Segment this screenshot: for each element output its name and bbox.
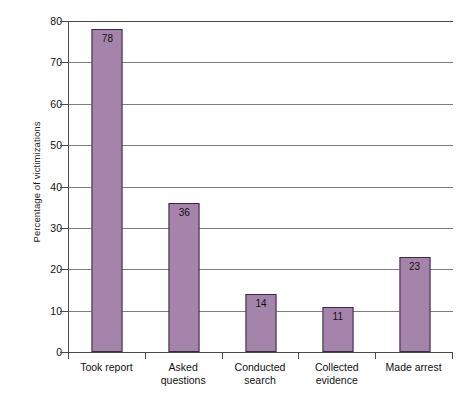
x-axis-tick-mark: [375, 353, 376, 359]
y-axis-tick-mark: [60, 62, 68, 63]
y-axis-tick-label: 40: [40, 182, 62, 192]
x-axis-category-label: Took report: [68, 361, 145, 374]
bars-layer: 7836141123: [69, 21, 453, 352]
y-axis-tick-labels: 01020304050607080: [40, 0, 62, 404]
bar-group[interactable]: 36: [146, 21, 223, 352]
y-axis-tick-mark: [60, 104, 68, 105]
y-axis-tick-mark: [60, 21, 68, 22]
y-axis-tick-label: 50: [40, 140, 62, 150]
bar-group[interactable]: 11: [299, 21, 376, 352]
x-axis-category-label: Collectedevidence: [298, 361, 375, 387]
bar[interactable]: 36: [169, 203, 200, 352]
y-axis-tick-mark: [60, 269, 68, 270]
x-axis-labels: Took reportAskedquestionsConductedsearch…: [68, 361, 452, 403]
x-axis-tick-mark: [452, 353, 453, 359]
y-axis-tick-label: 70: [40, 57, 62, 67]
bar-value-label: 36: [170, 207, 199, 218]
y-axis-ticks: [60, 21, 68, 352]
bar[interactable]: 11: [322, 307, 353, 353]
x-axis-category-label: Made arrest: [375, 361, 452, 374]
bar[interactable]: 78: [92, 29, 123, 352]
y-axis-tick-label: 60: [40, 99, 62, 109]
bar[interactable]: 23: [399, 257, 430, 352]
bar-group[interactable]: 23: [376, 21, 453, 352]
y-axis-tick-mark: [60, 228, 68, 229]
x-axis-tick-mark: [298, 353, 299, 359]
x-axis-label-line: evidence: [298, 374, 375, 387]
y-axis-tick-label: 10: [40, 306, 62, 316]
bar-value-label: 14: [246, 298, 275, 309]
x-axis-tick-mark: [145, 353, 146, 359]
y-axis-tick-mark: [60, 311, 68, 312]
bar-group[interactable]: 14: [223, 21, 300, 352]
bar[interactable]: 14: [245, 294, 276, 352]
y-axis-tick-mark: [60, 187, 68, 188]
y-axis-tick-label: 20: [40, 264, 62, 274]
bar-value-label: 23: [400, 261, 429, 272]
x-axis-ticks: [68, 353, 453, 360]
y-axis-tick-label: 30: [40, 223, 62, 233]
x-axis-label-line: Collected: [298, 361, 375, 374]
bar-value-label: 78: [93, 33, 122, 44]
x-axis-label-line: Made arrest: [375, 361, 452, 374]
y-axis-tick-mark: [60, 352, 68, 353]
bar-chart: Percentage of victimizations 01020304050…: [0, 0, 472, 404]
y-axis-tick-mark: [60, 145, 68, 146]
x-axis-label-line: search: [222, 374, 299, 387]
x-axis-label-line: Asked: [145, 361, 222, 374]
x-axis-tick-mark: [222, 353, 223, 359]
y-axis-tick-label: 0: [40, 347, 62, 357]
x-axis-label-line: questions: [145, 374, 222, 387]
x-axis-category-label: Conductedsearch: [222, 361, 299, 387]
x-axis-label-line: Conducted: [222, 361, 299, 374]
x-axis-tick-mark: [68, 353, 69, 359]
plot-area: 7836141123: [68, 21, 453, 353]
bar-value-label: 11: [323, 311, 352, 322]
bar-group[interactable]: 78: [69, 21, 146, 352]
y-axis-tick-label: 80: [40, 16, 62, 26]
x-axis-category-label: Askedquestions: [145, 361, 222, 387]
x-axis-label-line: Took report: [68, 361, 145, 374]
